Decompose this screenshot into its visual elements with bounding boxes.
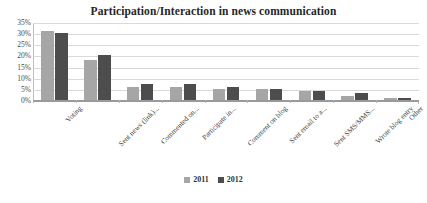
bar-group [33, 23, 76, 100]
legend-swatch-icon [184, 177, 190, 183]
bar-2012-9 [398, 98, 411, 100]
y-tick-label: 15% [1, 64, 31, 72]
plot-area [33, 23, 419, 101]
bar-2012-8 [355, 93, 368, 100]
bar-2011-9 [384, 98, 397, 100]
bar-2011-4 [170, 87, 183, 100]
bar-group [290, 23, 333, 100]
bar-2012-7 [313, 91, 326, 100]
y-tick-label: 5% [1, 86, 31, 94]
y-tick-label: 35% [1, 19, 31, 27]
x-tick-label: Sent news (link)... [117, 104, 161, 148]
y-tick-label: 0% [1, 97, 31, 105]
bar-group [333, 23, 376, 100]
bar-2011-1 [41, 31, 54, 100]
bar-2012-3 [141, 84, 154, 100]
x-tick-label: Participate in... [200, 104, 238, 142]
bar-group [162, 23, 205, 100]
legend-item-2011[interactable]: 2011 [184, 176, 209, 184]
bar-2011-7 [299, 91, 312, 100]
bar-2011-6 [256, 89, 269, 100]
x-tick-label: Comment on blog [245, 104, 289, 148]
bar-2012-1 [55, 33, 68, 100]
bar-group [76, 23, 119, 100]
x-tick-label: Sent SMS/MMS... [332, 104, 377, 149]
bar-2011-2 [84, 60, 97, 100]
bar-2012-2 [98, 55, 111, 100]
y-axis-labels: 35%30%25%20%15%10%5%0% [0, 23, 31, 101]
y-tick-label: 30% [1, 30, 31, 38]
chart-legend: 20112012 [0, 176, 427, 184]
bar-2011-5 [213, 89, 226, 100]
y-tick-label: 10% [1, 75, 31, 83]
legend-swatch-icon [218, 177, 224, 183]
bar-group [376, 23, 419, 100]
bar-2011-3 [127, 87, 140, 100]
bar-2011-8 [341, 96, 354, 100]
x-tick-label: Wrote blog entry [373, 104, 414, 145]
bar-group [247, 23, 290, 100]
x-tick-label: Voting [64, 104, 84, 124]
legend-label: 2011 [193, 176, 209, 184]
y-tick-label: 20% [1, 53, 31, 61]
legend-item-2012[interactable]: 2012 [218, 176, 243, 184]
legend-label: 2012 [227, 176, 243, 184]
chart-title: Participation/Interaction in news commun… [0, 5, 427, 17]
bar-2012-4 [184, 84, 197, 100]
y-tick-label: 25% [1, 42, 31, 50]
x-tick-label: Commented on... [159, 104, 201, 146]
bar-group [119, 23, 162, 100]
bar-chart: Participation/Interaction in news commun… [0, 0, 427, 203]
x-axis-labels: VotingSent news (link)...Commented on...… [33, 101, 419, 157]
bar-2012-5 [227, 87, 240, 100]
x-tick-label: Sent email to a... [287, 104, 328, 145]
bar-group [205, 23, 248, 100]
bar-2012-6 [270, 89, 283, 100]
